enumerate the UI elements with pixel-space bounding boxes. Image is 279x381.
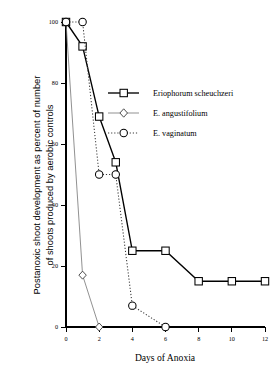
x-tick-label: 6 bbox=[164, 335, 167, 342]
series-e-vaginatum bbox=[62, 18, 169, 330]
diamond-marker-icon bbox=[95, 323, 102, 331]
series-eriophorum-scheuchzeri bbox=[62, 18, 268, 285]
x-axis-title: Days of Anoxia bbox=[55, 352, 275, 363]
y-axis-ticks bbox=[61, 22, 66, 327]
x-tick-label: 8 bbox=[197, 335, 200, 342]
square-marker-icon bbox=[195, 278, 202, 285]
circle-marker-icon bbox=[95, 171, 102, 178]
legend-entry-e-vaginatum: E. vaginatum bbox=[108, 129, 197, 138]
circle-marker-icon bbox=[62, 18, 69, 25]
chart-legend: Eriophorum scheuchzeri E. angustifolium … bbox=[108, 89, 234, 138]
chart-figure: 0 20 40 60 80 100 0 2 4 6 8 10 12 bbox=[0, 0, 279, 381]
x-tick-label: 2 bbox=[98, 335, 101, 342]
circle-marker-icon bbox=[129, 302, 136, 309]
square-marker-icon bbox=[129, 247, 136, 254]
square-marker-icon bbox=[95, 113, 102, 120]
y-tick-label: 100 bbox=[49, 18, 58, 25]
square-marker-icon bbox=[112, 159, 119, 166]
legend-label: E. angustifolium bbox=[153, 109, 208, 118]
circle-marker-icon bbox=[162, 323, 169, 330]
legend-label: Eriophorum scheuchzeri bbox=[153, 89, 234, 98]
square-marker-icon bbox=[120, 89, 127, 96]
data-series-layer bbox=[62, 18, 268, 331]
x-tick-label: 10 bbox=[229, 335, 235, 342]
diamond-marker-icon bbox=[79, 271, 86, 279]
x-tick-label: 0 bbox=[64, 335, 67, 342]
circle-marker-icon bbox=[120, 129, 127, 136]
x-tick-label: 4 bbox=[131, 335, 134, 342]
circle-marker-icon bbox=[112, 171, 119, 178]
square-marker-icon bbox=[261, 278, 268, 285]
circle-marker-icon bbox=[79, 18, 86, 25]
x-tick-label: 12 bbox=[262, 335, 268, 342]
series-path bbox=[66, 22, 99, 327]
series-path bbox=[66, 22, 265, 281]
square-marker-icon bbox=[162, 247, 169, 254]
square-marker-icon bbox=[228, 278, 235, 285]
y-axis-title-wrap: Postanoxic shoot development as percent … bbox=[0, 0, 40, 381]
diamond-marker-icon bbox=[120, 109, 128, 117]
legend-entry-e-angustifolium: E. angustifolium bbox=[108, 109, 208, 118]
legend-label: E. vaginatum bbox=[153, 129, 197, 138]
y-axis-title: Postanoxic shoot development as percent … bbox=[31, 30, 56, 340]
legend-entry-eriophorum-scheuchzeri: Eriophorum scheuchzeri bbox=[108, 89, 234, 98]
x-axis-tick-labels: 0 2 4 6 8 10 12 bbox=[64, 335, 268, 342]
